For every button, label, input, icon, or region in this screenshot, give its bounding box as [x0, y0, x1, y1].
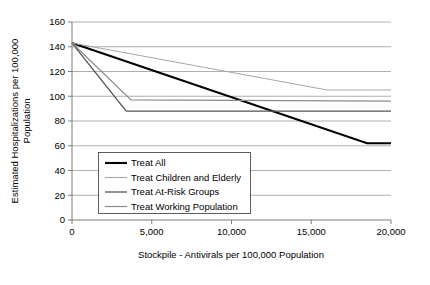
y-tick-label-80: 80 [54, 115, 65, 126]
x-tick-label-5000: 5,000 [140, 226, 164, 237]
legend-label-1: Treat Children and Elderly [131, 172, 241, 183]
y-tick-label-0: 0 [60, 214, 65, 225]
x-axis-title: Stockpile - Antivirals per 100,000 Popul… [138, 249, 324, 260]
legend-label-0: Treat All [131, 157, 166, 168]
y-tick-label-160: 160 [49, 16, 65, 27]
y-tick-label-100: 100 [49, 91, 65, 102]
x-tick-label-20000: 20,000 [376, 226, 405, 237]
y-tick-label-120: 120 [49, 66, 65, 77]
x-tick-label-10000: 10,000 [217, 226, 246, 237]
y-axis-ticks-group: 020406080100120140160 [49, 16, 72, 225]
y-tick-label-60: 60 [54, 140, 65, 151]
series-line-1 [72, 43, 391, 90]
series-line-0 [72, 43, 391, 143]
y-tick-label-140: 140 [49, 41, 65, 52]
legend: Treat AllTreat Children and ElderlyTreat… [99, 153, 251, 214]
x-tick-label-15000: 15,000 [297, 226, 326, 237]
legend-label-2: Treat At-Risk Groups [131, 186, 220, 197]
y-axis-title: Estimated Hospitalizations per 100,000 P… [9, 39, 32, 204]
y-axis-title-line2: Population [21, 99, 32, 144]
x-axis-ticks-group: 05,00010,00015,00020,000 [69, 220, 405, 237]
y-axis-title-line1: Estimated Hospitalizations per 100,000 [9, 39, 20, 204]
chart-container: 020406080100120140160 05,00010,00015,000… [0, 0, 430, 285]
y-tick-label-20: 20 [54, 190, 65, 201]
line-chart: 020406080100120140160 05,00010,00015,000… [0, 0, 430, 285]
legend-label-3: Treat Working Population [131, 201, 238, 212]
y-tick-label-40: 40 [54, 165, 65, 176]
x-tick-label-0: 0 [69, 226, 74, 237]
series-lines-group [72, 43, 391, 143]
